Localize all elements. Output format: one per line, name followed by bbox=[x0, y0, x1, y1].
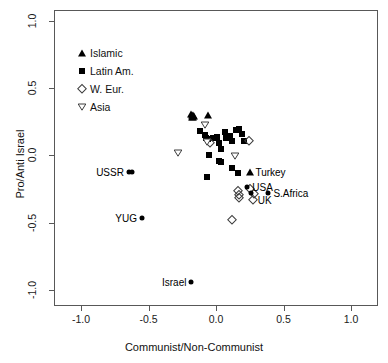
legend-marker-icon bbox=[75, 101, 88, 112]
y-tick bbox=[49, 155, 54, 156]
data-point bbox=[235, 170, 241, 176]
scatter-plot-figure: -1.0-0.50.00.51.0 -1.0-0.50.00.51.0 Turk… bbox=[0, 0, 388, 363]
x-tick-label: 0.0 bbox=[209, 313, 224, 325]
y-tick bbox=[49, 223, 54, 224]
legend-item: Islamic bbox=[75, 47, 134, 58]
y-tick bbox=[49, 290, 54, 291]
y-tick bbox=[49, 21, 54, 22]
data-point bbox=[130, 170, 135, 175]
x-tick-label: 0.5 bbox=[276, 313, 291, 325]
x-tick-label: -0.5 bbox=[139, 313, 157, 325]
data-point bbox=[189, 114, 197, 121]
y-tick-label: 0.5 bbox=[26, 75, 38, 101]
y-tick-label: -0.5 bbox=[26, 210, 38, 236]
data-point bbox=[216, 140, 222, 146]
point-label: USSR bbox=[96, 167, 124, 178]
x-tick bbox=[81, 306, 82, 311]
data-point bbox=[189, 279, 194, 284]
data-point bbox=[140, 216, 145, 221]
x-tick bbox=[284, 306, 285, 311]
point-label: UK bbox=[258, 194, 272, 205]
x-tick-label: 1.0 bbox=[344, 313, 359, 325]
legend-marker-icon bbox=[75, 47, 88, 58]
data-point bbox=[218, 146, 224, 152]
legend-item: W. Eur. bbox=[75, 83, 134, 94]
y-tick bbox=[49, 88, 54, 89]
y-axis-label: Pro/Anti Israel bbox=[14, 104, 26, 224]
y-tick-label: 1.0 bbox=[26, 8, 38, 34]
legend-label: Asia bbox=[90, 101, 110, 113]
legend-item: Asia bbox=[75, 101, 134, 112]
point-label: S.Africa bbox=[273, 188, 308, 199]
data-point bbox=[246, 169, 254, 176]
data-point bbox=[206, 152, 212, 158]
x-tick bbox=[149, 306, 150, 311]
data-point bbox=[200, 121, 209, 129]
legend: IslamicLatin Am.W. Eur.Asia bbox=[75, 47, 134, 112]
y-tick-label: 0.0 bbox=[26, 142, 38, 168]
data-point bbox=[230, 152, 239, 160]
x-tick bbox=[216, 306, 217, 311]
data-point bbox=[223, 135, 229, 141]
legend-label: W. Eur. bbox=[90, 83, 124, 95]
point-label: USA bbox=[252, 181, 273, 192]
point-label: Turkey bbox=[255, 167, 285, 178]
y-tick-label: -1.0 bbox=[26, 277, 38, 303]
legend-marker-icon bbox=[75, 83, 88, 94]
data-point bbox=[245, 184, 250, 189]
legend-item: Latin Am. bbox=[75, 65, 134, 76]
legend-label: Latin Am. bbox=[90, 65, 134, 77]
data-point bbox=[202, 138, 211, 146]
data-point bbox=[229, 138, 235, 144]
point-label: YUG bbox=[115, 213, 137, 224]
x-axis-label: Communist/Non-Communist bbox=[0, 341, 388, 353]
x-tick-label: -1.0 bbox=[72, 313, 90, 325]
data-point bbox=[204, 174, 210, 180]
data-point bbox=[218, 159, 224, 165]
data-point bbox=[173, 149, 182, 157]
x-tick bbox=[351, 306, 352, 311]
legend-label: Islamic bbox=[90, 47, 123, 59]
legend-marker-icon bbox=[75, 65, 88, 76]
point-label: Israel bbox=[162, 276, 186, 287]
data-point bbox=[204, 111, 212, 118]
